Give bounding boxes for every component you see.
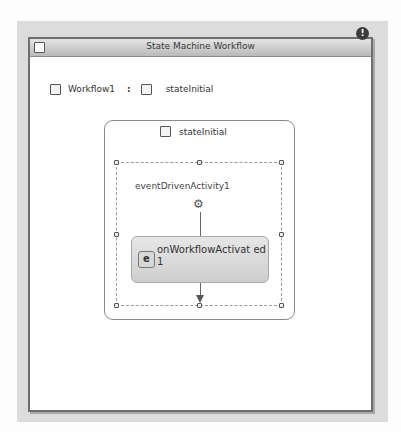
activity-label: onWorkflowActivat ed1 bbox=[157, 244, 267, 268]
breadcrumb-state-link[interactable]: stateInitial bbox=[166, 84, 214, 94]
breadcrumb-separator: : bbox=[127, 84, 131, 94]
event-driven-activity-label: eventDrivenActivity1 bbox=[135, 181, 230, 191]
breadcrumb: Workflow1 : stateInitial bbox=[50, 82, 213, 96]
resize-handle-left[interactable] bbox=[114, 232, 119, 237]
window-titlebar: State Machine Workflow bbox=[30, 39, 371, 57]
gear-icon: ⚙ bbox=[193, 198, 204, 210]
breadcrumb-workflow-link[interactable]: Workflow1 bbox=[68, 84, 115, 94]
resize-handle-right[interactable] bbox=[279, 232, 284, 237]
connector-line bbox=[200, 212, 201, 236]
workflow-event-icon: e bbox=[138, 251, 155, 268]
resize-handle-top[interactable] bbox=[197, 160, 202, 165]
workflow-icon bbox=[50, 84, 61, 95]
resize-handle-top-right[interactable] bbox=[279, 160, 284, 165]
resize-handle-bottom-right[interactable] bbox=[279, 303, 284, 308]
state-name: stateInitial bbox=[179, 127, 227, 137]
window-title: State Machine Workflow bbox=[30, 41, 371, 51]
resize-handle-bottom[interactable] bbox=[197, 303, 202, 308]
on-workflow-activated-activity[interactable]: e onWorkflowActivat ed1 bbox=[131, 236, 269, 283]
state-header[interactable]: stateInitial bbox=[160, 126, 227, 137]
resize-handle-top-left[interactable] bbox=[114, 160, 119, 165]
resize-handle-bottom-left[interactable] bbox=[114, 303, 119, 308]
state-icon bbox=[160, 126, 171, 137]
arrow-down-icon bbox=[196, 295, 204, 303]
exclamation-circle-icon[interactable]: ! bbox=[356, 27, 369, 40]
state-icon bbox=[141, 84, 152, 95]
